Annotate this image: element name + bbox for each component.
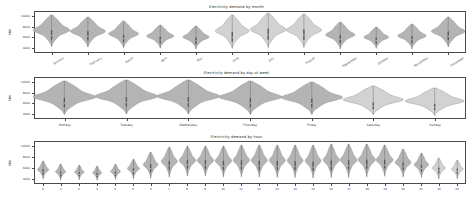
x-tick-label-friday: Friday [307, 123, 316, 127]
violin-thursday [221, 80, 280, 115]
violin-quartile-box [188, 97, 189, 106]
y-tick-label: 10000 [10, 144, 30, 148]
violin-15 [305, 144, 321, 179]
panel-by-day-of-week: Electricity demand by day of week MW 400… [0, 66, 473, 130]
x-tick-mark [160, 53, 161, 55]
x-tick-label-22: 22 [437, 187, 441, 191]
x-tick-label-21: 21 [419, 187, 423, 191]
violin-january [34, 14, 69, 48]
y-axis-label-day: MW [8, 95, 12, 101]
x-tick-label-wednesday: Wednesday [179, 123, 197, 127]
x-tick-label-20: 20 [401, 187, 405, 191]
violin-median-marker [159, 40, 160, 41]
violin-june [216, 14, 248, 49]
x-tick-label-10: 10 [221, 187, 225, 191]
x-tick-mark [97, 184, 98, 186]
violin-12 [251, 144, 268, 178]
violin-median-marker [411, 39, 412, 40]
x-tick-label-23: 23 [455, 187, 459, 191]
x-tick-label-august: August [305, 56, 316, 65]
violin-august [287, 13, 321, 48]
violin-tuesday [97, 79, 156, 115]
violin-median-marker [456, 171, 457, 172]
x-tick-mark [259, 184, 260, 186]
violin-quartile-box [312, 161, 313, 170]
violin-21 [414, 152, 429, 178]
violin-median-marker [267, 34, 268, 35]
violin-11 [233, 144, 250, 178]
y-tick-mark [32, 114, 34, 115]
y-tick-label: 4000 [10, 177, 30, 181]
x-tick-mark [115, 184, 116, 186]
y-tick-label: 8000 [10, 155, 30, 159]
violin-median-marker [311, 103, 312, 104]
x-tick-mark [43, 184, 44, 186]
violin-quartile-box [150, 164, 151, 172]
x-tick-label-saturday: Saturday [366, 123, 380, 127]
violin-median-marker [132, 171, 133, 172]
y-axis-label-month: MW [8, 29, 12, 35]
violin-median-marker [420, 168, 421, 169]
x-tick-label-tuesday: Tuesday [120, 123, 133, 127]
x-tick-mark [250, 119, 251, 121]
x-tick-label-march: March [124, 56, 134, 64]
x-tick-mark [232, 53, 233, 55]
violin-wednesday [159, 79, 218, 115]
violin-quartile-box [267, 29, 268, 40]
x-tick-mark [349, 184, 350, 186]
x-tick-mark [376, 53, 377, 55]
violin-median-marker [78, 174, 79, 175]
x-tick-mark [268, 53, 269, 55]
x-tick-mark [205, 184, 206, 186]
violin-7 [161, 146, 178, 178]
x-tick-mark [169, 184, 170, 186]
violin-median-marker [384, 165, 385, 166]
x-tick-mark [196, 53, 197, 55]
panel-by-hour: Electricity demand by hour MW 4000600080… [0, 130, 473, 198]
y-tick-mark [32, 179, 34, 180]
violin-median-marker [276, 166, 277, 167]
violin-17 [340, 143, 357, 178]
y-tick-label: 8000 [10, 91, 30, 95]
x-tick-label-15: 15 [311, 187, 315, 191]
violin-median-marker [339, 38, 340, 39]
violin-2 [74, 164, 85, 181]
x-tick-mark [133, 184, 134, 186]
y-tick-mark [32, 93, 34, 94]
x-tick-mark [187, 184, 188, 186]
violin-median-marker [375, 40, 376, 41]
x-tick-label-6: 6 [150, 187, 152, 191]
x-tick-mark [223, 184, 224, 186]
x-tick-label-5: 5 [132, 187, 134, 191]
y-tick-label: 6000 [10, 166, 30, 170]
y-tick-mark [32, 48, 34, 49]
x-tick-label-may: May [196, 56, 203, 63]
x-tick-mark [331, 184, 332, 186]
violin-median-marker [87, 35, 88, 36]
violin-saturday [345, 85, 402, 116]
x-tick-label-october: October [377, 56, 389, 66]
violin-quartile-box [240, 161, 241, 170]
violin-median-marker [114, 174, 115, 175]
violin-median-marker [42, 172, 43, 173]
x-tick-mark [385, 184, 386, 186]
x-tick-mark [421, 184, 422, 186]
x-tick-label-8: 8 [186, 187, 188, 191]
x-tick-mark [340, 53, 341, 55]
x-tick-label-thursday: Thursday [243, 123, 257, 127]
violin-median-marker [222, 165, 223, 166]
violin-september [326, 21, 354, 50]
x-tick-mark [435, 119, 436, 121]
violin-18 [358, 143, 376, 178]
violin-quartile-box [64, 97, 65, 106]
violin-median-marker [447, 36, 448, 37]
violin-quartile-box [249, 97, 250, 106]
x-tick-mark [65, 119, 66, 121]
y-tick-label: 10000 [10, 80, 30, 84]
violin-quartile-box [258, 161, 259, 170]
x-tick-label-16: 16 [329, 187, 333, 191]
violin-14 [287, 144, 303, 179]
x-tick-mark [373, 119, 374, 121]
violin-quartile-box [366, 159, 367, 168]
x-tick-label-14: 14 [293, 187, 297, 191]
